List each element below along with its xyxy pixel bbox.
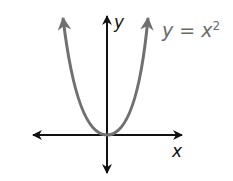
curve-label-base: x [201, 19, 212, 41]
curve-label-lhs: y [162, 19, 173, 41]
parabola-left [63, 18, 107, 135]
curve-label-eq: = [173, 19, 201, 41]
x-axis-label: x [172, 143, 182, 160]
curve-label: y = x2 [162, 20, 220, 40]
y-axis-label: y [114, 14, 124, 31]
curve-label-exponent: 2 [213, 19, 221, 33]
parabola-right [107, 18, 148, 135]
